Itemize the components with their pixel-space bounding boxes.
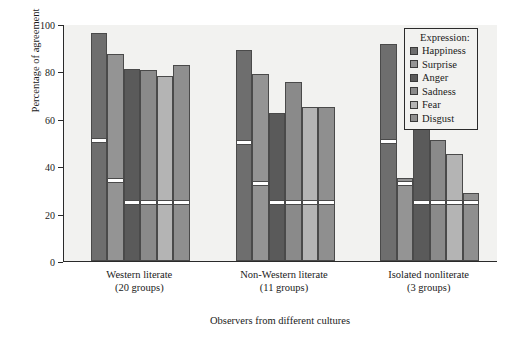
group-label-line1: Non-Western literate <box>240 268 328 281</box>
bar-anger-group-0 <box>124 69 141 261</box>
bar-sadness-group-0 <box>140 70 157 261</box>
bar-fear-group-1 <box>302 107 319 261</box>
bar-marker-line <box>141 200 156 205</box>
bar-marker-line <box>253 181 268 186</box>
legend-swatch-happiness <box>410 47 418 55</box>
bar-surprise-group-1 <box>252 74 269 261</box>
y-tick-mark <box>58 167 63 168</box>
bar-marker-line <box>286 200 301 205</box>
legend-swatch-anger <box>410 74 418 82</box>
bar-marker-line <box>319 200 334 205</box>
legend-swatch-fear <box>410 101 418 109</box>
legend-rows: HappinessSurpriseAngerSadnessFearDisgust <box>410 44 470 125</box>
bar-marker-line <box>158 200 173 205</box>
legend: Expression: HappinessSurpriseAngerSadnes… <box>404 28 478 130</box>
group-label-line2: (20 groups) <box>106 281 172 294</box>
y-tick-label: 40 <box>25 162 55 173</box>
legend-label: Surprise <box>422 59 457 70</box>
bar-fear-group-2 <box>446 154 463 261</box>
bar-anger-group-1 <box>269 113 286 261</box>
bar-surprise-group-0 <box>107 54 124 261</box>
legend-item-surprise: Surprise <box>410 58 470 72</box>
group-label-2: Isolated nonliterate(3 groups) <box>388 268 469 294</box>
bar-marker-line <box>381 139 396 144</box>
bar-fear-group-0 <box>157 76 174 261</box>
legend-item-happiness: Happiness <box>410 44 470 58</box>
y-tick-mark <box>58 120 63 121</box>
group-label-line2: (11 groups) <box>240 281 328 294</box>
bar-marker-line <box>237 140 252 145</box>
group-label-line1: Isolated nonliterate <box>388 268 469 281</box>
bar-happiness-group-1 <box>236 50 253 261</box>
bar-marker-line <box>108 178 123 183</box>
bar-disgust-group-1 <box>318 107 335 261</box>
bar-marker-line <box>270 200 285 205</box>
y-tick-label: 80 <box>25 67 55 78</box>
y-tick-label: 100 <box>25 20 55 31</box>
legend-item-sadness: Sadness <box>410 85 470 99</box>
bar-marker-line <box>125 200 140 205</box>
y-tick-label: 20 <box>25 209 55 220</box>
y-tick-label: 0 <box>25 257 55 268</box>
bar-marker-line <box>398 181 413 186</box>
bar-happiness-group-2 <box>380 44 397 261</box>
legend-label: Happiness <box>422 45 466 56</box>
legend-item-disgust: Disgust <box>410 112 470 126</box>
legend-label: Anger <box>422 72 448 83</box>
bar-marker-line <box>431 200 446 205</box>
legend-swatch-disgust <box>410 114 418 122</box>
y-tick-mark <box>58 72 63 73</box>
legend-item-anger: Anger <box>410 71 470 85</box>
y-tick-mark <box>58 25 63 26</box>
y-tick-label: 60 <box>25 114 55 125</box>
group-label-0: Western literate(20 groups) <box>106 268 172 294</box>
bar-anger-group-2 <box>413 129 430 261</box>
bar-marker-line <box>174 200 189 205</box>
legend-swatch-sadness <box>410 87 418 95</box>
bar-marker-line <box>92 138 107 143</box>
bar-marker-line <box>303 200 318 205</box>
legend-label: Disgust <box>422 113 454 124</box>
bar-disgust-group-0 <box>173 65 190 261</box>
bar-marker-line <box>447 200 462 205</box>
legend-swatch-surprise <box>410 60 418 68</box>
bar-marker-line <box>464 200 479 205</box>
legend-item-fear: Fear <box>410 98 470 112</box>
legend-title: Expression: <box>410 32 470 43</box>
bar-happiness-group-0 <box>91 33 108 261</box>
legend-label: Sadness <box>422 86 456 97</box>
bar-sadness-group-1 <box>285 82 302 261</box>
bar-marker-line <box>414 200 429 205</box>
group-label-line1: Western literate <box>106 268 172 281</box>
group-label-1: Non-Western literate(11 groups) <box>240 268 328 294</box>
bar-disgust-group-2 <box>463 193 480 261</box>
bar-chart-figure: Percentage of agreement 020406080100 Wes… <box>0 0 531 338</box>
legend-label: Fear <box>422 99 441 110</box>
bar-surprise-group-2 <box>397 178 414 261</box>
y-tick-mark <box>58 262 63 263</box>
bar-sadness-group-2 <box>430 140 447 261</box>
y-tick-mark <box>58 215 63 216</box>
group-label-line2: (3 groups) <box>388 281 469 294</box>
x-axis-title: Observers from different cultures <box>63 315 497 326</box>
